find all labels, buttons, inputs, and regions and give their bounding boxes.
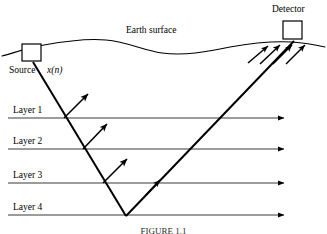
downgoing-ray	[33, 62, 126, 216]
detector-arrow-2	[260, 45, 280, 64]
upgoing-ray-direction-arrow	[146, 180, 160, 195]
layer-2-label: Layer 2	[13, 137, 42, 147]
source-label: Source	[9, 66, 35, 76]
layer-3-label: Layer 3	[13, 171, 42, 181]
reflection-arrow-layer-3	[103, 159, 127, 183]
source-box	[22, 44, 41, 61]
reflection-arrow-layer-2	[83, 124, 107, 149]
source-signal-label: x(n)	[47, 66, 62, 76]
detector-arrow-1	[248, 46, 268, 63]
earth-surface-label: Earth surface	[126, 26, 176, 36]
seismic-layers-figure: Earth surface Detector Source x(n) Layer…	[0, 0, 327, 234]
detector-label: Detector	[272, 5, 305, 15]
reflection-arrow-layer-1	[64, 94, 88, 118]
detector-box	[283, 21, 302, 39]
figure-caption: FIGURE 1.1	[0, 226, 327, 234]
layer-4-label: Layer 4	[13, 203, 42, 213]
layer-1-label: Layer 1	[13, 106, 42, 116]
